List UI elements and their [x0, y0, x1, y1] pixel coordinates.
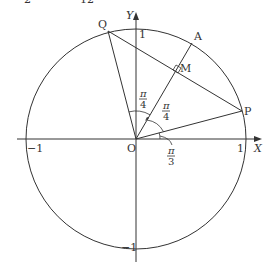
point-m-label: M [180, 62, 191, 75]
svg-text:π: π [162, 100, 170, 111]
segment-op [136, 111, 242, 139]
y-tick-neg1-label: −1 [121, 241, 137, 254]
svg-text:3: 3 [168, 156, 174, 167]
arc-qoa [129, 111, 150, 115]
point-p-label: P [244, 105, 252, 118]
svg-text:4: 4 [163, 111, 169, 122]
y-tick-1: 1 [139, 28, 146, 41]
arc-aop [147, 120, 164, 132]
origin-label: O [127, 142, 136, 155]
angle-label-aop: π 4 [162, 100, 170, 122]
svg-text:4: 4 [140, 99, 146, 110]
leader-pi-3 [160, 136, 172, 145]
angle-label-qoa: π 4 [139, 88, 147, 110]
point-a-label: A [193, 30, 203, 43]
point-q-label: Q [98, 18, 107, 31]
y-axis-arrow-icon [133, 12, 139, 20]
svg-text:π: π [139, 88, 147, 99]
residual-top-text-1: 2 [24, 0, 31, 6]
x-tick-neg1: −1 [27, 142, 43, 155]
arc-xop [159, 133, 160, 139]
unit-circle-diagram: 2 12 X Y O −1 1 1 −1 P A Q M π 4 π 4 [0, 0, 270, 273]
x-tick-1: 1 [237, 142, 244, 155]
angle-label-xoa: π 3 [167, 145, 175, 167]
residual-top-text-2: 12 [80, 0, 94, 6]
segment-oq [108, 31, 136, 139]
y-axis-label: Y [126, 9, 135, 22]
x-axis-label: X [253, 142, 263, 155]
svg-text:π: π [167, 145, 175, 156]
